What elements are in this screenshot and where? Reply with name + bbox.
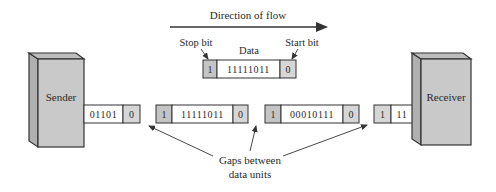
svg-text:0: 0 xyxy=(129,109,134,120)
svg-text:00010111: 00010111 xyxy=(290,109,334,120)
start-bit-label: Start bit xyxy=(285,37,319,48)
svg-text:11111011: 11111011 xyxy=(181,109,224,120)
receiver-box: Receiver xyxy=(412,53,471,145)
gaps-label-line1: Gaps between xyxy=(219,154,282,166)
direction-of-flow: Direction of flow xyxy=(170,9,326,27)
gap-arrow-3-icon xyxy=(283,125,367,156)
start-bit-pointer-icon xyxy=(292,49,298,59)
svg-text:11: 11 xyxy=(397,109,408,120)
stop-bit-label: Stop bit xyxy=(180,37,213,48)
gap-pointers: Gaps between data units xyxy=(149,125,367,180)
gap-arrow-2-icon xyxy=(250,126,256,151)
example-frame: Stop bit Data Start bit 1 11111011 0 xyxy=(180,37,319,78)
example-data-bits: 11111011 xyxy=(227,64,270,75)
sender-label: Sender xyxy=(46,91,77,103)
stream-frame-1: 01101 0 xyxy=(84,105,140,123)
example-stop-bit: 1 xyxy=(208,64,213,75)
svg-text:1: 1 xyxy=(271,109,276,120)
data-label: Data xyxy=(239,45,259,56)
stream-frame-2: 1 11111011 0 xyxy=(156,105,248,123)
gaps-label-line2: data units xyxy=(229,168,271,180)
receiver-label: Receiver xyxy=(426,91,465,103)
flow-label: Direction of flow xyxy=(210,9,286,21)
svg-text:01101: 01101 xyxy=(90,109,118,120)
stream-frame-4: 1 11 xyxy=(374,105,413,123)
stream-frame-3: 1 00010111 0 xyxy=(265,105,359,123)
svg-text:1: 1 xyxy=(162,109,167,120)
sender-box: Sender xyxy=(29,53,84,147)
stop-bit-pointer-icon xyxy=(201,49,208,59)
svg-text:1: 1 xyxy=(380,109,385,120)
async-transmission-diagram: Direction of flow Stop bit Data Start bi… xyxy=(0,0,496,192)
example-start-bit: 0 xyxy=(286,64,291,75)
gap-arrow-1-icon xyxy=(149,126,213,156)
svg-text:0: 0 xyxy=(349,109,354,120)
svg-text:0: 0 xyxy=(238,109,243,120)
